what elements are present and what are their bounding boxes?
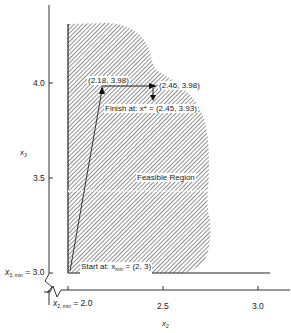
feasible-region-label: Feasible Region xyxy=(136,173,196,182)
x-min-label: x2, min = 2.0 xyxy=(53,299,92,311)
x-tick-3.0: 3.0 xyxy=(252,302,264,311)
point-label-2.18-3.98: (2.18, 3.98) xyxy=(87,76,130,85)
x-tick-2.5: 2.5 xyxy=(157,302,169,311)
start-label: Start at: xmin = (2, 3) xyxy=(80,262,152,274)
x-axis xyxy=(44,286,290,297)
point-label-2.46-3.98: (2.46, 3.98) xyxy=(158,81,201,90)
finish-label: Finish at: x* = (2.45, 3.93) xyxy=(104,104,198,113)
y-axis-title: x3 xyxy=(20,148,27,160)
diagram-canvas xyxy=(0,0,291,333)
y-tick-3.5: 3.5 xyxy=(33,174,45,183)
y-tick-4.0: 4.0 xyxy=(33,79,45,88)
x-axis-title: x2 xyxy=(162,319,169,331)
y-min-label: x3, min = 3.0 xyxy=(5,268,44,280)
feasible-region xyxy=(68,23,210,273)
